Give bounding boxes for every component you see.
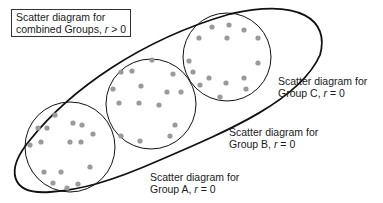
data-point — [116, 100, 121, 105]
data-point — [255, 60, 260, 65]
data-point — [79, 122, 84, 127]
data-point — [90, 131, 95, 136]
data-point — [206, 75, 211, 80]
data-point — [27, 142, 32, 147]
data-point — [58, 169, 63, 174]
data-point — [197, 82, 202, 87]
data-point — [149, 57, 154, 62]
data-point — [87, 164, 92, 169]
data-point — [137, 138, 142, 143]
data-point — [50, 180, 55, 185]
data-point — [172, 122, 177, 127]
group-a-circle — [25, 102, 115, 192]
data-point — [110, 86, 115, 91]
data-point — [190, 69, 195, 74]
data-point — [217, 94, 222, 99]
data-point — [138, 83, 143, 88]
data-point — [41, 169, 46, 174]
data-point — [78, 139, 83, 144]
data-point — [196, 35, 201, 40]
data-point — [186, 58, 191, 63]
data-point — [223, 80, 228, 85]
data-point — [118, 133, 123, 138]
data-point — [67, 139, 72, 144]
data-point — [35, 125, 40, 130]
data-point — [64, 185, 69, 190]
data-point — [241, 27, 246, 32]
data-point — [241, 75, 246, 80]
data-point — [136, 100, 141, 105]
data-point — [38, 139, 43, 144]
data-point — [164, 89, 169, 94]
data-point — [52, 112, 57, 117]
data-point — [224, 35, 229, 40]
group-b-label: Scatter diagram for Group B, r = 0 — [229, 126, 318, 150]
data-point — [70, 120, 75, 125]
group-a-label: Scatter diagram for Group A, r = 0 — [150, 171, 239, 195]
data-point — [167, 133, 172, 138]
data-point — [44, 125, 49, 130]
data-point — [129, 68, 134, 73]
data-point — [226, 22, 231, 27]
data-point — [156, 102, 161, 107]
combined-groups-label: Scatter diagram for combined Groups, r >… — [11, 9, 131, 37]
data-point — [118, 69, 123, 74]
group-c-label: Scatter diagram for Group C, r = 0 — [278, 75, 367, 99]
data-point — [75, 181, 80, 186]
data-point — [255, 35, 260, 40]
data-point — [170, 71, 175, 76]
data-point — [243, 86, 248, 91]
data-point — [209, 24, 214, 29]
data-point — [178, 89, 183, 94]
